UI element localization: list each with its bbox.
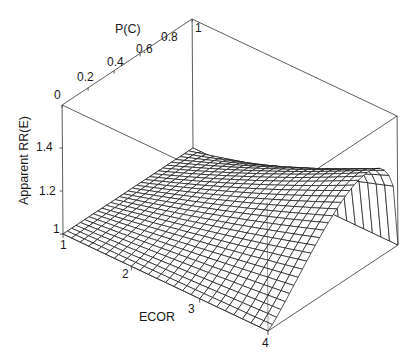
surface-plot [0, 0, 408, 364]
wireframe-surface [63, 148, 398, 331]
y-tick-label-0.2: 0.2 [77, 71, 94, 83]
y-tick-label-0: 0 [54, 89, 61, 101]
x-tick-label-3: 3 [188, 303, 195, 315]
z-tick-label-1.4: 1.4 [36, 141, 53, 153]
y-axis-title: P(C) [115, 23, 141, 35]
x-tick-label-2: 2 [122, 268, 129, 280]
x-tick-label-4: 4 [262, 337, 269, 349]
y-tick-label-0.4: 0.4 [107, 56, 124, 68]
x-tick-label-1: 1 [60, 239, 67, 251]
y-tick-label-0.6: 0.6 [136, 43, 153, 55]
z-tick-label-1: 1 [53, 223, 60, 235]
y-tick-label-1: 1 [195, 22, 202, 34]
x-axis-title: ECOR [139, 311, 175, 323]
y-tick-label-0.8: 0.8 [161, 31, 178, 43]
z-axis-title: Apparent RR(E) [18, 116, 30, 205]
z-tick-label-1.2: 1.2 [39, 185, 56, 197]
